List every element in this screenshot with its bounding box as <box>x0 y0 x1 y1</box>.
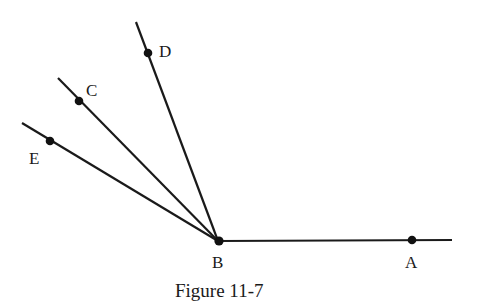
point-b <box>214 236 223 245</box>
label-b: B <box>212 253 223 272</box>
figure-caption: Figure 11-7 <box>175 280 263 301</box>
point-c <box>75 97 84 106</box>
label-d: D <box>159 42 171 61</box>
point-a <box>408 236 417 245</box>
point-e <box>46 137 55 146</box>
label-e: E <box>29 149 39 168</box>
angle-diagram: D C E B A Figure 11-7 <box>0 0 480 303</box>
label-a: A <box>405 253 418 272</box>
ray-ba <box>218 240 452 241</box>
label-c: C <box>86 81 97 100</box>
point-d <box>144 49 153 58</box>
